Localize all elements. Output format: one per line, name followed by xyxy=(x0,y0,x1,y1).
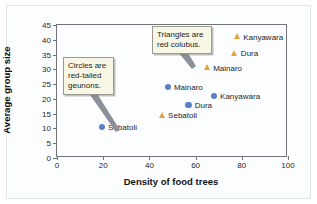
x-tick-label: 0 xyxy=(55,161,59,170)
y-tick-mark xyxy=(53,69,57,70)
y-tick-mark xyxy=(53,84,57,85)
circle-marker-icon xyxy=(99,124,105,130)
data-point-label: Dura xyxy=(241,49,258,58)
data-point-label: Dura xyxy=(195,100,212,109)
x-axis-title: Density of food trees xyxy=(124,176,219,187)
y-tick-label: 25 xyxy=(42,80,51,89)
y-tick-mark xyxy=(53,99,57,100)
y-tick-label: 45 xyxy=(42,21,51,30)
x-tick-mark xyxy=(57,156,58,160)
x-tick-mark xyxy=(103,156,104,160)
annotation-circles-callout: Circles are red-tailed geunons. xyxy=(63,57,114,95)
x-tick-mark xyxy=(242,156,243,160)
data-point-label: Mainaro xyxy=(213,63,242,72)
circle-marker-icon xyxy=(185,102,191,108)
x-tick-label: 80 xyxy=(237,161,246,170)
y-tick-mark xyxy=(53,143,57,144)
data-point-label: Mainaro xyxy=(174,83,203,92)
figure-scatter-plot: Average group size Density of food trees… xyxy=(0,0,317,204)
y-tick-label: 30 xyxy=(42,65,51,74)
x-tick-label: 60 xyxy=(191,161,200,170)
x-tick-label: 40 xyxy=(145,161,154,170)
y-tick-label: 5 xyxy=(47,139,51,148)
y-tick-label: 15 xyxy=(42,109,51,118)
x-tick-mark xyxy=(288,156,289,160)
triangle-marker-icon xyxy=(231,50,237,56)
circle-marker-icon xyxy=(165,84,171,90)
triangle-marker-icon xyxy=(159,112,165,118)
y-tick-label: 35 xyxy=(42,50,51,59)
y-tick-mark xyxy=(53,114,57,115)
data-point-label: Kanyawara xyxy=(220,91,260,100)
annotation-triangles-callout: Triangles are red colubus. xyxy=(152,26,212,54)
y-tick-mark xyxy=(53,25,57,26)
x-tick-mark xyxy=(149,156,150,160)
y-tick-mark xyxy=(53,128,57,129)
y-tick-label: 40 xyxy=(42,35,51,44)
y-axis-title: Average group size xyxy=(1,46,12,133)
y-tick-label: 0 xyxy=(47,154,51,163)
x-tick-label: 20 xyxy=(99,161,108,170)
x-tick-label: 100 xyxy=(281,161,294,170)
x-tick-mark xyxy=(196,156,197,160)
triangle-marker-icon xyxy=(234,33,240,39)
y-tick-mark xyxy=(53,55,57,56)
y-tick-label: 10 xyxy=(42,124,51,133)
circle-marker-icon xyxy=(211,93,217,99)
triangle-marker-icon xyxy=(204,64,210,70)
y-tick-mark xyxy=(53,40,57,41)
data-point-label: Sebatoli xyxy=(108,122,137,131)
data-point-label: Kanyawara xyxy=(243,32,283,41)
y-tick-label: 20 xyxy=(42,94,51,103)
data-point-label: Sebatoli xyxy=(168,111,197,120)
